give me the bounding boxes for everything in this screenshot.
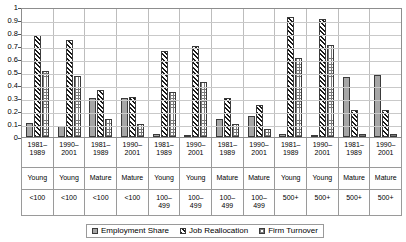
bar-3: [42, 71, 49, 137]
bar-2: [256, 105, 263, 138]
y-axis-labels: 10.90.80.70.60.50.40.30.20.10: [0, 8, 18, 138]
bar-2: [224, 98, 231, 137]
category-column: 1990–2001Mature<100: [116, 138, 148, 216]
category-age: Mature: [212, 168, 243, 190]
bar-3: [264, 129, 271, 137]
category-age: Young: [22, 168, 53, 190]
legend-swatch-icon: [180, 228, 186, 234]
category-age: Mature: [339, 168, 370, 190]
category-period: 1981–1989: [275, 138, 306, 168]
category-period: 1990–2001: [307, 138, 338, 168]
y-axis-tick-label: 0.2: [8, 108, 18, 116]
bar-group: [180, 9, 212, 137]
y-axis-tick-label: 0.4: [8, 82, 18, 90]
bar-3: [200, 82, 207, 137]
bar-group: [22, 9, 54, 137]
category-period: 1990–2001: [180, 138, 211, 168]
y-axis-tick: [18, 125, 21, 126]
category-age: Young: [307, 168, 338, 190]
bar-group: [117, 9, 149, 137]
category-age: Mature: [244, 168, 275, 190]
bar-3: [390, 134, 397, 137]
y-axis-tick: [18, 47, 21, 48]
bar-1: [121, 98, 128, 137]
bar-group: [149, 9, 181, 137]
y-axis-tick: [18, 21, 21, 22]
category-size: <100: [22, 190, 53, 216]
y-axis-tick-label: 0.5: [8, 69, 18, 77]
y-axis-tick: [18, 112, 21, 113]
bar-2: [161, 51, 168, 137]
chart-legend: Employment ShareJob ReallocationFirm Tur…: [86, 224, 324, 238]
y-axis-tick-label: 0.1: [8, 121, 18, 129]
category-size: <100: [85, 190, 116, 216]
bar-1: [89, 98, 96, 137]
category-column: 1990–2001Mature500+: [369, 138, 402, 216]
bar-1: [153, 134, 160, 137]
bar-1: [26, 123, 33, 137]
bar-2: [66, 40, 73, 137]
category-size: <100: [117, 190, 148, 216]
gridline: [22, 113, 401, 114]
legend-item[interactable]: Employment Share: [92, 227, 169, 235]
category-column: 1990–2001Young100–499: [179, 138, 211, 216]
bar-chart: 10.90.80.70.60.50.40.30.20.10 1981–1989Y…: [0, 0, 406, 242]
category-column: 1981–1989Mature100–499: [211, 138, 243, 216]
gridline: [22, 100, 401, 101]
y-axis-tick: [18, 86, 21, 87]
gridline: [22, 74, 401, 75]
gridline: [22, 48, 401, 49]
category-period: 1990–2001: [370, 138, 401, 168]
category-age: Mature: [370, 168, 401, 190]
bar-1: [216, 119, 223, 137]
legend-label: Job Reallocation: [189, 227, 248, 235]
legend-item[interactable]: Firm Turnover: [259, 227, 318, 235]
bar-3: [105, 119, 112, 137]
bar-1: [58, 126, 65, 137]
category-size: <100: [54, 190, 85, 216]
bar-3: [169, 92, 176, 137]
plot-area: [21, 8, 402, 138]
category-label-table: 1981–1989Young<1001990–2001Young<1001981…: [21, 138, 402, 216]
y-axis-tick-label: 0.8: [8, 30, 18, 38]
category-size: 100–499: [149, 190, 180, 216]
y-axis-tick: [18, 34, 21, 35]
bar-group: [307, 9, 339, 137]
category-period: 1981–1989: [149, 138, 180, 168]
y-axis-tick: [18, 73, 21, 74]
category-age: Young: [180, 168, 211, 190]
y-axis-tick-label: 0.3: [8, 95, 18, 103]
legend-label: Employment Share: [101, 227, 169, 235]
category-column: 1990–2001Mature100–499: [243, 138, 275, 216]
legend-swatch-icon: [259, 228, 265, 234]
legend-item[interactable]: Job Reallocation: [180, 227, 248, 235]
bar-group: [244, 9, 276, 137]
category-period: 1981–1989: [339, 138, 370, 168]
gridline: [22, 35, 401, 36]
category-period: 1990–2001: [54, 138, 85, 168]
category-age: Mature: [85, 168, 116, 190]
legend-label: Firm Turnover: [268, 227, 318, 235]
y-axis-tick-label: 0.6: [8, 56, 18, 64]
category-column: 1990–2001Young500+: [306, 138, 338, 216]
category-period: 1981–1989: [212, 138, 243, 168]
category-age: Mature: [117, 168, 148, 190]
category-size: 500+: [339, 190, 370, 216]
category-size: 500+: [307, 190, 338, 216]
category-column: 1981–1989Young<100: [21, 138, 53, 216]
category-age: Young: [275, 168, 306, 190]
bar-group: [275, 9, 307, 137]
category-period: 1990–2001: [117, 138, 148, 168]
bar-2: [319, 19, 326, 137]
category-size: 100–499: [180, 190, 211, 216]
category-size: 100–499: [212, 190, 243, 216]
y-axis-tick-label: 0.7: [8, 43, 18, 51]
gridline: [22, 126, 401, 127]
category-age: Young: [54, 168, 85, 190]
bar-group: [85, 9, 117, 137]
bar-2: [192, 46, 199, 137]
bar-3: [327, 45, 334, 137]
category-column: 1981–1989Young100–499: [148, 138, 180, 216]
category-period: 1981–1989: [22, 138, 53, 168]
bar-groups: [22, 9, 401, 137]
